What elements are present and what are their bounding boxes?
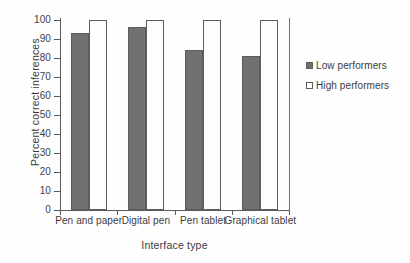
legend-item-low-performers: Low performers: [306, 60, 410, 71]
y-axis-tick-label: 10: [11, 186, 51, 196]
bar-high-performers: [203, 20, 221, 210]
y-axis-tick-label: 40: [11, 129, 51, 139]
y-axis-tick-label: 100: [11, 15, 51, 25]
x-axis-category-label: Graphical tablet: [224, 215, 297, 227]
y-axis-tick-label: 70: [11, 72, 51, 82]
bar-high-performers: [89, 20, 107, 210]
y-axis-tick-label: 0: [11, 205, 51, 215]
legend-item-high-performers: High performers: [306, 80, 410, 91]
legend-item-label: High performers: [316, 80, 389, 91]
y-axis-tick-label: 60: [11, 91, 51, 101]
plot-right-rule: [289, 18, 290, 212]
y-axis-tick-label: 20: [11, 167, 51, 177]
open-square-icon: [306, 82, 313, 89]
bar-high-performers: [146, 20, 164, 210]
plot-area: [60, 20, 289, 210]
bar-low-performers: [185, 50, 203, 210]
x-axis-title: Interface type: [60, 239, 289, 251]
chart-figure: Percent correct inferences 1009080706050…: [0, 0, 410, 263]
y-axis-tick-label: 90: [11, 34, 51, 44]
y-axis-tick-label: 80: [11, 53, 51, 63]
bar-low-performers: [242, 56, 260, 210]
bar-low-performers: [128, 27, 146, 210]
filled-square-icon: [306, 62, 313, 69]
y-axis-tick-label: 50: [11, 110, 51, 120]
chart-legend: Low performersHigh performers: [306, 60, 410, 100]
bar-high-performers: [260, 20, 278, 210]
bar-low-performers: [71, 33, 89, 210]
legend-item-label: Low performers: [316, 60, 387, 71]
y-axis-tick-label: 30: [11, 148, 51, 158]
